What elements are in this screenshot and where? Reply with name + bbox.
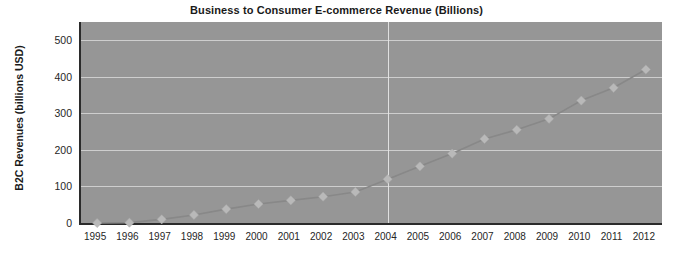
plot-area — [79, 22, 662, 225]
x-axis-tick-labels: 1995199619971998199920002001200220032004… — [0, 231, 673, 249]
data-point-marker — [512, 125, 521, 134]
data-point-marker — [415, 162, 424, 171]
data-point-marker — [222, 205, 231, 214]
data-point-marker — [480, 134, 489, 143]
data-point-marker — [157, 215, 166, 224]
data-point-marker — [254, 199, 263, 208]
chart-title: Business to Consumer E-commerce Revenue … — [0, 4, 673, 16]
chart-container: Business to Consumer E-commerce Revenue … — [0, 0, 673, 253]
y-tick-label: 300 — [26, 107, 72, 119]
data-point-marker — [318, 192, 327, 201]
series-polyline — [97, 70, 646, 223]
data-point-marker — [544, 114, 553, 123]
y-tick-label: 400 — [26, 71, 72, 83]
data-point-marker — [93, 218, 102, 227]
y-tick-label: 200 — [26, 144, 72, 156]
data-point-marker — [125, 218, 134, 227]
y-axis-title: B2C Revenues (billions USD) — [13, 18, 25, 218]
y-tick-label: 500 — [26, 34, 72, 46]
data-point-marker — [609, 83, 618, 92]
x-tick-label: 2012 — [624, 231, 664, 242]
y-axis-tick-labels: 0100200300400500 — [26, 0, 72, 253]
series-line-b2c-revenue — [81, 22, 662, 223]
y-tick-label: 0 — [26, 217, 72, 229]
data-point-marker — [448, 149, 457, 158]
data-point-marker — [286, 196, 295, 205]
y-tick-label: 100 — [26, 180, 72, 192]
data-point-marker — [577, 96, 586, 105]
data-point-marker — [383, 175, 392, 184]
data-point-marker — [351, 187, 360, 196]
data-point-marker — [641, 65, 650, 74]
data-point-marker — [189, 210, 198, 219]
